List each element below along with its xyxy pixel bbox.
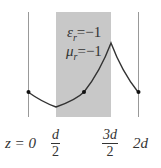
mu-value: =−1 bbox=[77, 43, 101, 59]
label-3d-half: 3d 2 bbox=[102, 128, 118, 159]
fraction-numerator: d bbox=[51, 128, 60, 144]
epsilon-label: εr=−1 bbox=[67, 25, 101, 43]
point-marker bbox=[137, 90, 141, 94]
epsilon-value: =−1 bbox=[77, 24, 101, 40]
mu-label: μr=−1 bbox=[66, 44, 102, 62]
fraction-denominator: 2 bbox=[52, 144, 59, 159]
point-marker bbox=[82, 90, 86, 94]
label-z0: z = 0 bbox=[5, 136, 36, 151]
fraction-denominator: 2 bbox=[107, 144, 114, 159]
fraction-numerator: 3d bbox=[102, 128, 118, 144]
label-d-half: d 2 bbox=[51, 128, 60, 159]
label-2d: 2d bbox=[133, 136, 148, 151]
point-marker bbox=[27, 90, 31, 94]
mu-symbol: μ bbox=[66, 43, 74, 59]
